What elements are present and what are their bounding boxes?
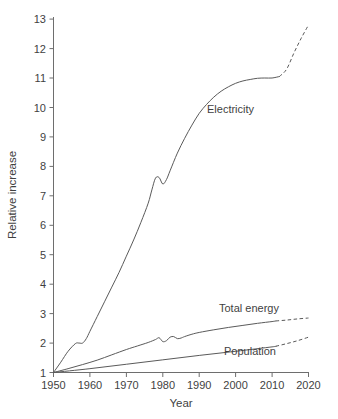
series-electricity-solid — [54, 77, 280, 373]
y-tick-label: 7 — [40, 190, 46, 202]
x-axis-tick-labels: 1950 1960 1970 1980 1990 2000 2010 2020 — [41, 379, 320, 391]
series-electricity-dashed — [279, 25, 308, 77]
y-tick-label: 13 — [34, 13, 46, 25]
line-chart-svg: 1 2 3 4 5 6 7 8 9 10 11 12 13 1950 — [0, 0, 338, 419]
annotation-population: Population — [224, 345, 276, 357]
series-total-energy-dashed — [276, 318, 309, 321]
series-annotations: Electricity Total energy Population — [207, 103, 279, 357]
series-population-dashed — [276, 337, 309, 346]
x-tick-label: 1950 — [41, 379, 65, 391]
y-tick-label: 3 — [40, 308, 46, 320]
y-tick-label: 5 — [40, 249, 46, 261]
y-tick-label: 12 — [34, 43, 46, 55]
x-tick-label: 1960 — [78, 379, 102, 391]
y-tick-label: 9 — [40, 131, 46, 143]
y-tick-label: 1 — [40, 367, 46, 379]
x-axis-ticks — [54, 373, 309, 378]
x-axis-title: Year — [169, 397, 192, 409]
y-tick-label: 4 — [40, 278, 46, 290]
annotation-total-energy: Total energy — [219, 302, 279, 314]
x-tick-label: 1990 — [187, 379, 211, 391]
y-tick-label: 10 — [34, 102, 46, 114]
annotation-electricity: Electricity — [207, 103, 255, 115]
y-tick-label: 11 — [35, 72, 46, 84]
y-axis-ticks — [50, 19, 54, 372]
y-tick-label: 6 — [40, 219, 46, 231]
chart-figure: 1 2 3 4 5 6 7 8 9 10 11 12 13 1950 — [0, 0, 338, 419]
series-group — [54, 25, 309, 373]
y-axis-title: Relative increase — [6, 151, 18, 239]
y-axis-tick-labels: 1 2 3 4 5 6 7 8 9 10 11 12 13 — [34, 13, 46, 378]
y-tick-label: 2 — [40, 337, 46, 349]
y-tick-label: 8 — [40, 160, 46, 172]
x-tick-label: 2010 — [260, 379, 284, 391]
x-tick-label: 2000 — [223, 379, 247, 391]
x-tick-label: 1970 — [114, 379, 138, 391]
x-tick-label: 2020 — [296, 379, 320, 391]
x-tick-label: 1980 — [151, 379, 175, 391]
